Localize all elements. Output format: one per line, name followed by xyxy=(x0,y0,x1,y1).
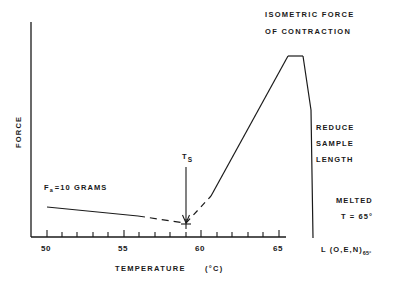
series-isometric-rise xyxy=(211,56,288,196)
transition-symbol: T xyxy=(182,152,188,161)
x-axis-units: (°C) xyxy=(205,264,224,273)
preload-annotation: Fa=10 GRAMS xyxy=(44,183,107,192)
reduce-sample-length-line-2: SAMPLE xyxy=(316,139,354,148)
x-axis-ticks xyxy=(47,230,279,237)
series-baseline-drift xyxy=(47,207,138,216)
preload-value: =10 GRAMS xyxy=(55,183,108,192)
x-axis-label: TEMPERATURE xyxy=(115,264,186,273)
length-label: L (O,E,N) xyxy=(321,245,363,254)
x-tick-label-55: 55 xyxy=(118,244,128,253)
x-tick-label-60: 60 xyxy=(195,244,205,253)
chart-title-line-2: OF CONTRACTION xyxy=(265,27,351,36)
series-melting-drop xyxy=(303,56,313,238)
transition-subscript: S xyxy=(188,156,192,163)
minimum-cross-marker xyxy=(181,219,191,229)
series-baseline-drift-extrapolated xyxy=(138,216,185,223)
length-subscript: 65° xyxy=(363,250,371,256)
reduce-sample-length-line-1: REDUCE xyxy=(316,123,354,132)
preload-symbol: F xyxy=(44,183,50,192)
melted-label: MELTED xyxy=(336,196,373,205)
melted-temperature: T = 65° xyxy=(341,212,373,221)
preload-subscript: a xyxy=(50,187,53,193)
length-annotation: L (O,E,N)65° xyxy=(321,245,371,254)
series-contraction-onset xyxy=(186,196,211,223)
chart-title-line-1: ISOMETRIC FORCE xyxy=(265,10,355,19)
x-tick-label-65: 65 xyxy=(273,244,283,253)
x-tick-label-50: 50 xyxy=(41,244,51,253)
figure-container: ISOMETRIC FORCE OF CONTRACTION FORCE 50 … xyxy=(0,0,395,283)
transition-temperature-arrow xyxy=(183,167,190,223)
transition-temperature-label: TS xyxy=(182,152,192,161)
y-axis-label: FORCE xyxy=(14,116,23,148)
reduce-sample-length-line-3: LENGTH xyxy=(316,155,353,164)
